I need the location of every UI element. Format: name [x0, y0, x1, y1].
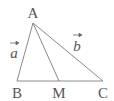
triangle-diagram: A B M C a b — [0, 0, 114, 101]
side-ac — [33, 23, 103, 81]
vector-a-label: a — [10, 45, 18, 61]
median-am — [33, 23, 59, 81]
side-ab — [17, 23, 33, 81]
vector-arrow-b-icon — [73, 33, 82, 36]
vertex-b-label: B — [12, 85, 22, 101]
vector-b-label: b — [73, 38, 81, 54]
point-m-label: M — [52, 85, 65, 101]
vertex-a-label: A — [28, 5, 39, 21]
vertex-c-label: C — [98, 85, 108, 101]
